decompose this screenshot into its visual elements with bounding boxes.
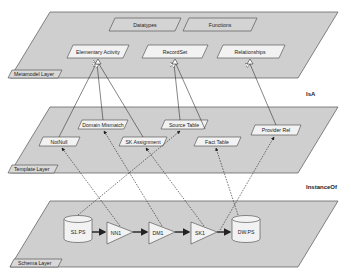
- metamodel-layer: Metamodel Layer Datatypes Functions Elem…: [8, 12, 338, 78]
- node-provider-rel[interactable]: Provider Rel: [251, 125, 301, 135]
- template-layer: Template Layer Domain Mismatch Source Ta…: [8, 107, 338, 173]
- node-sk-assignment[interactable]: SK Assignment: [119, 137, 167, 146]
- svg-text:DW.PS: DW.PS: [238, 229, 255, 235]
- svg-text:Fact Table: Fact Table: [205, 139, 229, 145]
- svg-text:Elementary Activity: Elementary Activity: [76, 49, 120, 55]
- instanceof-label: InstanceOf: [306, 184, 338, 190]
- svg-text:NotNull: NotNull: [50, 139, 67, 145]
- svg-text:Provider Rel: Provider Rel: [262, 127, 291, 133]
- node-source-table[interactable]: Source Table: [161, 120, 208, 129]
- datastore-dw-ps[interactable]: DW.PS: [232, 216, 260, 243]
- layered-diagram: Metamodel Layer Datatypes Functions Elem…: [0, 0, 351, 279]
- isa-label: IsA: [306, 91, 316, 97]
- svg-text:SK Assignment: SK Assignment: [125, 139, 161, 145]
- node-datatypes[interactable]: Datatypes: [109, 18, 181, 31]
- node-functions[interactable]: Functions: [183, 18, 257, 31]
- schema-layer-label: Schema Layer: [18, 260, 52, 266]
- node-notnull[interactable]: NotNull: [39, 137, 80, 146]
- svg-text:Functions: Functions: [209, 22, 232, 28]
- template-layer-label: Template Layer: [14, 166, 50, 172]
- metamodel-layer-label: Metamodel Layer: [14, 71, 54, 77]
- datastore-s1-ps[interactable]: S1.PS: [64, 216, 92, 243]
- svg-text:Relationships: Relationships: [234, 49, 266, 55]
- node-recordset[interactable]: RecordSet: [142, 45, 208, 58]
- svg-text:SK1: SK1: [195, 230, 205, 236]
- node-elementary-activity[interactable]: Elementary Activity: [67, 45, 129, 58]
- node-domain-mismatch[interactable]: Domain Mismatch: [78, 120, 128, 129]
- svg-text:Source Table: Source Table: [169, 122, 199, 128]
- node-fact-table[interactable]: Fact Table: [194, 137, 241, 146]
- svg-text:S1.PS: S1.PS: [71, 229, 86, 235]
- svg-text:Datatypes: Datatypes: [133, 22, 157, 28]
- node-relationships[interactable]: Relationships: [217, 45, 285, 58]
- schema-layer: Schema Layer S1.PS NN1 DM1 SK1 DW.PS: [10, 201, 338, 267]
- svg-text:DM1: DM1: [153, 230, 164, 236]
- svg-text:NN1: NN1: [111, 230, 121, 236]
- svg-text:RecordSet: RecordSet: [163, 49, 188, 55]
- svg-text:Domain Mismatch: Domain Mismatch: [82, 122, 124, 128]
